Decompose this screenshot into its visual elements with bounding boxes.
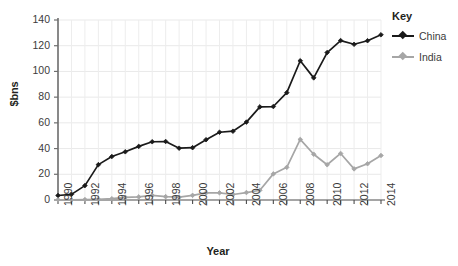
- legend-marker-icon: [392, 51, 414, 63]
- legend-item-label: China: [419, 30, 446, 42]
- chart-plot-area: [0, 0, 458, 266]
- x-tick-label: 1992: [89, 183, 101, 206]
- x-tick-label: 1996: [143, 183, 155, 206]
- x-tick-label: 2010: [331, 183, 343, 206]
- y-tick-label: 120: [14, 39, 50, 51]
- chart-legend: Key ChinaIndia: [392, 10, 446, 72]
- y-tick-label: 20: [14, 167, 50, 179]
- legend-item-india[interactable]: India: [392, 51, 446, 63]
- legend-item-china[interactable]: China: [392, 30, 446, 42]
- x-tick-label: 2014: [385, 183, 397, 206]
- y-tick-label: 100: [14, 64, 50, 76]
- chart-figure: $bns Year 020406080100120140 19901992199…: [0, 0, 458, 266]
- y-tick-label: 0: [14, 193, 50, 205]
- legend-title: Key: [392, 10, 446, 22]
- x-tick-label: 2004: [250, 183, 262, 206]
- y-tick-label: 140: [14, 13, 50, 25]
- x-tick-label: 1990: [62, 183, 74, 206]
- x-tick-label: 2006: [277, 183, 289, 206]
- y-tick-label: 40: [14, 142, 50, 154]
- x-tick-label: 2002: [224, 183, 236, 206]
- legend-entries: ChinaIndia: [392, 30, 446, 63]
- x-axis-title: Year: [178, 245, 258, 257]
- legend-item-label: India: [419, 51, 442, 63]
- x-tick-label: 2000: [197, 183, 209, 206]
- x-tick-label: 2012: [358, 183, 370, 206]
- x-tick-label: 1998: [170, 183, 182, 206]
- y-tick-label: 80: [14, 90, 50, 102]
- y-tick-label: 60: [14, 116, 50, 128]
- x-tick-label: 1994: [116, 183, 128, 206]
- legend-marker-icon: [392, 30, 414, 42]
- x-tick-label: 2008: [304, 183, 316, 206]
